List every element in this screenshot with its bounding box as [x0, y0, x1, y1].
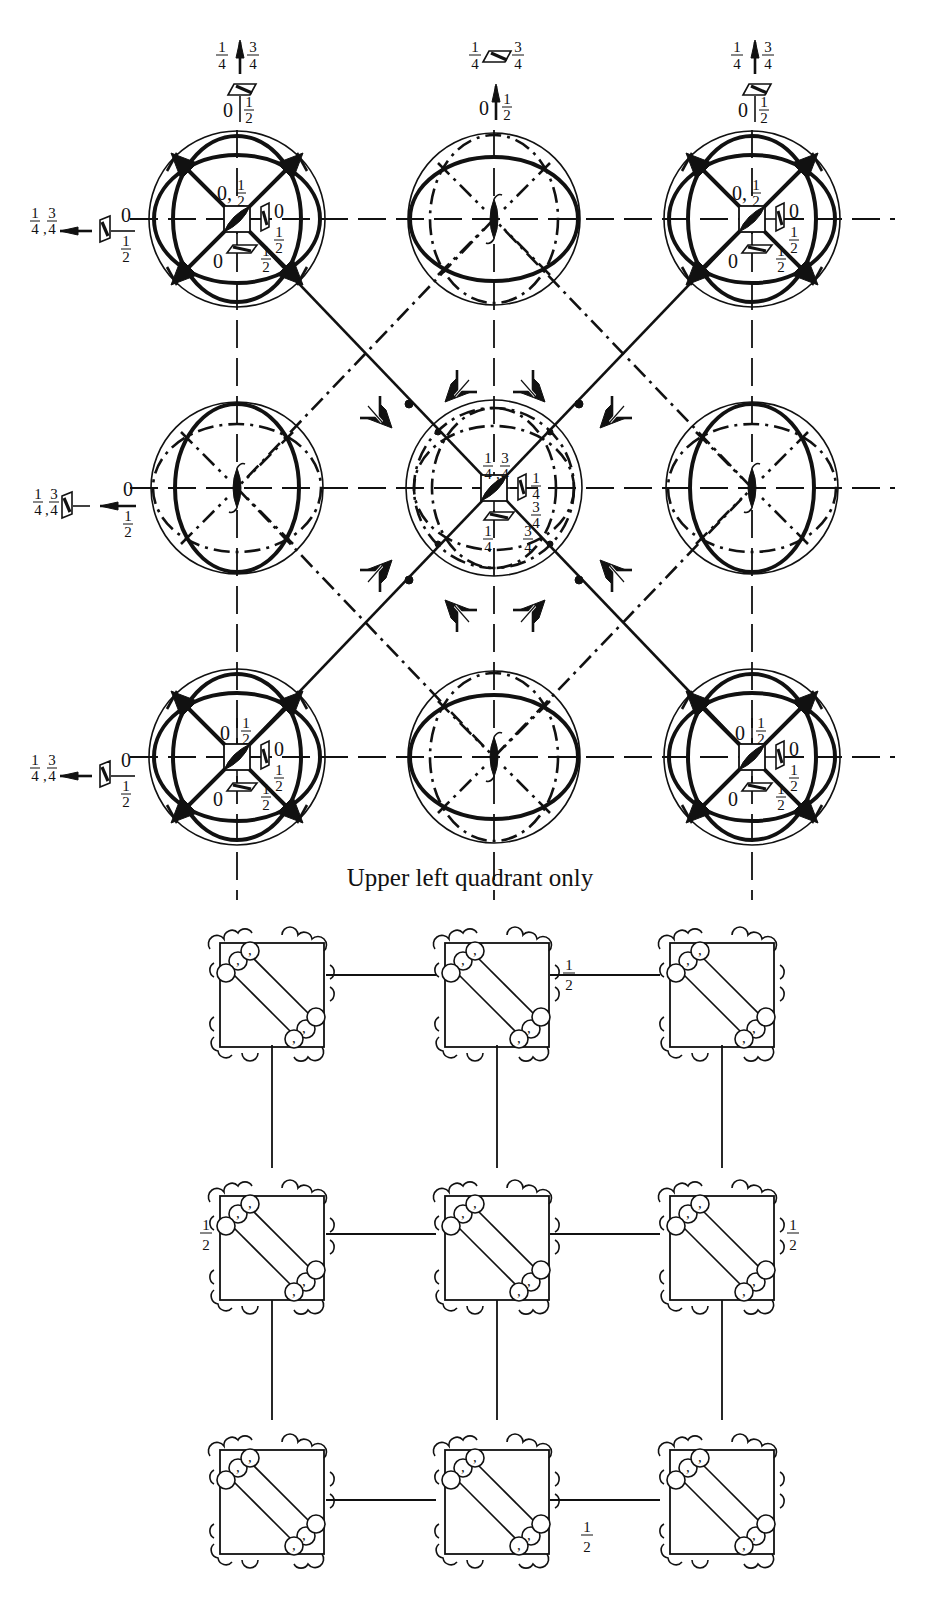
svg-text:4: 4 — [48, 221, 56, 237]
top-label-center: 1 4 3 4 0 1 2 — [469, 39, 524, 123]
svg-text:1: 1 — [757, 715, 765, 731]
svg-text:1: 1 — [471, 39, 479, 55]
svg-text:4: 4 — [501, 466, 509, 482]
svg-text:4: 4 — [249, 56, 257, 72]
svg-text:2: 2 — [777, 259, 785, 275]
svg-text:4: 4 — [733, 56, 741, 72]
svg-text:0: 0 — [274, 200, 284, 222]
svg-text:2: 2 — [583, 1539, 591, 1555]
svg-text:2: 2 — [503, 107, 511, 123]
svg-text:,: , — [45, 502, 49, 518]
svg-text:3: 3 — [50, 486, 58, 502]
svg-text:1: 1 — [777, 781, 785, 797]
svg-text:1: 1 — [237, 177, 245, 193]
svg-text:2: 2 — [789, 1237, 797, 1253]
svg-text:2: 2 — [202, 1237, 210, 1253]
svg-text:0: 0 — [223, 99, 233, 121]
svg-text:,: , — [43, 221, 47, 237]
left-label-middle: 1 4 , 3 4 0 1 2 — [33, 478, 136, 540]
svg-text:,: , — [496, 466, 500, 482]
svg-text:1: 1 — [34, 486, 42, 502]
center-sphere-labels: 1 4 , 3 4 1 4 3 4 1 4 3 4 — [483, 450, 541, 555]
svg-text:0,: 0, — [732, 182, 747, 204]
svg-text:1: 1 — [275, 762, 283, 778]
svg-text:1: 1 — [124, 508, 132, 524]
svg-text:2: 2 — [790, 778, 798, 794]
svg-text:4: 4 — [484, 466, 492, 482]
svg-text:2: 2 — [760, 110, 768, 126]
svg-text:1: 1 — [242, 715, 250, 731]
svg-text:4: 4 — [532, 515, 540, 531]
svg-text:3: 3 — [524, 523, 532, 539]
svg-text:4: 4 — [484, 539, 492, 555]
svg-text:2: 2 — [757, 731, 765, 747]
svg-text:3: 3 — [514, 39, 522, 55]
svg-text:1: 1 — [484, 450, 492, 466]
svg-text:2: 2 — [122, 249, 130, 265]
svg-text:4: 4 — [514, 56, 522, 72]
svg-text:0: 0 — [274, 738, 284, 760]
svg-text:1: 1 — [262, 781, 270, 797]
svg-text:3: 3 — [48, 752, 56, 768]
svg-text:0: 0 — [789, 200, 799, 222]
svg-text:1: 1 — [777, 243, 785, 259]
svg-text:3: 3 — [764, 39, 772, 55]
svg-text:0: 0 — [479, 97, 489, 119]
svg-text:0: 0 — [735, 722, 745, 744]
svg-text:1: 1 — [202, 1217, 210, 1233]
svg-text:4: 4 — [218, 56, 226, 72]
svg-text:1: 1 — [532, 470, 540, 486]
svg-text:0: 0 — [728, 788, 738, 810]
svg-text:4: 4 — [524, 539, 532, 555]
svg-text:1: 1 — [752, 177, 760, 193]
lower-panel: 1 2 1 2 1 2 1 2 — [200, 927, 799, 1568]
svg-text:1: 1 — [760, 94, 768, 110]
svg-text:4: 4 — [31, 221, 39, 237]
svg-text:0: 0 — [213, 788, 223, 810]
svg-text:0,: 0, — [217, 182, 232, 204]
svg-text:0: 0 — [220, 722, 230, 744]
svg-text:,: , — [43, 768, 47, 784]
svg-text:0: 0 — [738, 99, 748, 121]
upper-panel: 1 4 3 4 0 1 2 1 4 3 4 0 — [30, 39, 895, 900]
svg-text:3: 3 — [501, 450, 509, 466]
svg-text:2: 2 — [275, 778, 283, 794]
svg-text:1: 1 — [31, 205, 39, 221]
upper-panel-caption: Upper left quadrant only — [0, 864, 940, 892]
svg-text:4: 4 — [764, 56, 772, 72]
svg-text:4: 4 — [34, 502, 42, 518]
symmetry-diagram: , , , , — [0, 0, 940, 1616]
svg-text:0: 0 — [123, 478, 133, 500]
svg-text:1: 1 — [122, 233, 130, 249]
svg-text:2: 2 — [275, 240, 283, 256]
left-label-bottom: 1 4 , 3 4 0 1 2 — [30, 749, 135, 810]
svg-text:1: 1 — [583, 1519, 591, 1535]
svg-text:1: 1 — [262, 243, 270, 259]
svg-text:0: 0 — [121, 204, 131, 226]
svg-text:2: 2 — [262, 797, 270, 813]
svg-text:3: 3 — [48, 205, 56, 221]
svg-text:2: 2 — [790, 240, 798, 256]
svg-text:3: 3 — [249, 39, 257, 55]
half-label: 1 2 — [787, 1217, 799, 1253]
svg-text:1: 1 — [503, 91, 511, 107]
svg-text:2: 2 — [122, 794, 130, 810]
top-label-left: 1 4 3 4 0 1 2 — [216, 39, 259, 126]
svg-text:1: 1 — [218, 39, 226, 55]
svg-text:0: 0 — [728, 250, 738, 272]
svg-text:1: 1 — [122, 778, 130, 794]
svg-text:1: 1 — [245, 94, 253, 110]
svg-text:2: 2 — [245, 110, 253, 126]
svg-text:2: 2 — [242, 731, 250, 747]
left-label-top: 1 4 , 3 4 0 1 2 — [30, 204, 135, 265]
svg-text:1: 1 — [565, 957, 573, 973]
svg-text:4: 4 — [471, 56, 479, 72]
svg-text:2: 2 — [237, 193, 245, 209]
svg-text:2: 2 — [752, 193, 760, 209]
top-label-right: 1 4 3 4 0 1 2 — [731, 39, 774, 126]
svg-text:0: 0 — [121, 749, 131, 771]
svg-text:1: 1 — [790, 762, 798, 778]
svg-text:2: 2 — [777, 797, 785, 813]
svg-text:1: 1 — [790, 224, 798, 240]
half-label: 1 2 — [581, 1519, 593, 1555]
